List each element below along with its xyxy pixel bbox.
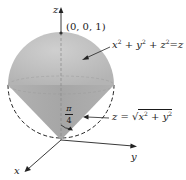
- north-pole-label: (0, 0, 1): [66, 22, 106, 32]
- cone-equation: z = √x2 + y2: [112, 111, 172, 122]
- y-axis-label: y: [131, 152, 137, 162]
- angle-label: π 4: [65, 104, 73, 125]
- sphere-equation: x2 + y2 + z2=z: [112, 39, 183, 50]
- z-axis: [59, 7, 64, 33]
- cone-leader-arrow: [83, 115, 109, 120]
- north-pole-point: [59, 31, 62, 34]
- z-axis-label: z: [53, 5, 58, 15]
- y-axis: [61, 140, 137, 149]
- ice-cream-cone-diagram: z y x (0, 0, 1) x2 + y2 + z2=z z = √x2 +…: [0, 0, 186, 180]
- radicand: x2 + y2: [138, 109, 172, 122]
- x-axis: [25, 140, 62, 172]
- x-axis-label: x: [14, 166, 20, 176]
